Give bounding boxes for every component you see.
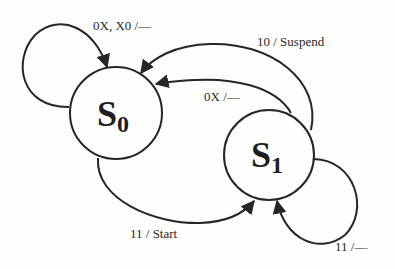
label-s0-self-loop: 0X, X0 /— <box>93 18 152 33</box>
state-s0: S0 <box>70 67 162 159</box>
label-0x: 0X /— <box>204 89 241 104</box>
state-diagram: S0 S1 0X, X0 /— 10 / Suspend 0X /— 11 / … <box>0 0 395 269</box>
transition-s0-self-loop <box>23 24 107 107</box>
label-suspend: 10 / Suspend <box>257 34 325 49</box>
transition-s0-to-s1-start <box>98 158 254 223</box>
transition-s1-self-loop <box>277 159 357 244</box>
state-s1-label: S1 <box>251 135 283 178</box>
label-start: 11 / Start <box>130 226 178 241</box>
transition-s1-to-s0-suspend <box>141 44 312 130</box>
label-s1-self-loop: 11 /— <box>335 239 368 254</box>
state-s0-label: S0 <box>97 94 129 137</box>
state-s1: S1 <box>224 110 314 200</box>
